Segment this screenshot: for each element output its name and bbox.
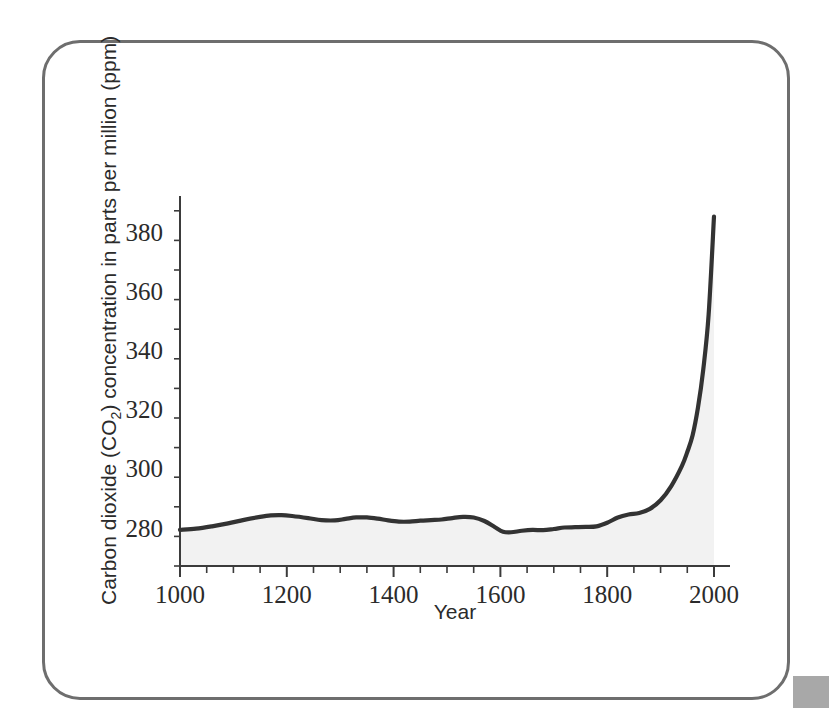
x-tick-label: 1600 (475, 581, 525, 608)
y-tick-label: 300 (126, 455, 164, 482)
y-tick-label: 380 (126, 219, 164, 246)
x-tick-label: 1200 (262, 581, 312, 608)
y-tick-label: 360 (126, 278, 164, 305)
x-tick-label: 2000 (689, 581, 739, 608)
series-line-co2 (180, 217, 714, 533)
figure-root: 280300320340360380 100012001400160018002… (0, 0, 829, 726)
y-axis-title: Carbon dioxide (CO2) concentration in pa… (97, 36, 124, 605)
x-tick-label: 1000 (155, 581, 205, 608)
y-axis-title-subscript: 2 (108, 411, 124, 419)
y-tick-label: 280 (126, 515, 164, 542)
y-axis-tick-labels: 280300320340360380 (126, 219, 164, 542)
y-tick-label: 340 (126, 337, 164, 364)
x-axis-title: Year (434, 600, 476, 623)
co2-concentration-line-chart: 280300320340360380 100012001400160018002… (0, 0, 829, 726)
x-tick-label: 1800 (582, 581, 632, 608)
y-axis-title-part-after: ) concentration in parts per million (pp… (97, 36, 120, 412)
x-axis-ticks (180, 566, 714, 577)
x-tick-label: 1400 (369, 581, 419, 608)
y-tick-label: 320 (126, 396, 164, 423)
y-axis-title-part-before: Carbon dioxide (CO (97, 419, 120, 605)
